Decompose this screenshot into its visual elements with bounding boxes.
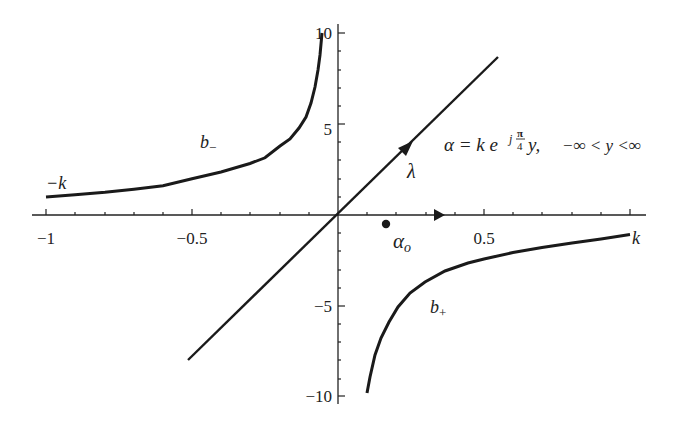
label-b-minus: b− — [200, 132, 216, 155]
y-tick-label: −5 — [314, 297, 332, 316]
label-k: k — [632, 228, 641, 248]
label-lambda: λ — [406, 160, 416, 182]
equation-exponent-pi: π — [517, 127, 523, 139]
point-alpha-o — [382, 220, 390, 228]
y-tick-label: 5 — [324, 120, 333, 139]
label-alpha-o: αo — [393, 229, 411, 255]
equation-rhs: y, — [526, 134, 540, 155]
x-tick-label: −0.5 — [177, 229, 208, 248]
y-tick-label: 10 — [315, 24, 332, 43]
x-axis: −1 −0.5 0.5 — [32, 209, 646, 248]
contour-lambda-line — [188, 57, 498, 360]
equation-range: −∞ < y <∞ — [562, 136, 641, 155]
curve-b-plus — [367, 235, 630, 394]
complex-plane-diagram: −1 −0.5 0.5 10 5 — [0, 0, 677, 424]
label-minus-k: −k — [46, 173, 67, 193]
equation-exponent-j: j — [507, 132, 513, 146]
label-b-plus: b+ — [430, 297, 446, 320]
equation-exponent-4: 4 — [517, 140, 523, 152]
y-tick-label: −10 — [305, 387, 332, 406]
x-axis-direction-arrow-icon — [434, 209, 445, 221]
curve-b-minus — [46, 33, 322, 197]
contour-equation: α = k e j π 4 y, −∞ < y <∞ — [444, 127, 641, 155]
x-tick-label: −1 — [37, 229, 55, 248]
x-tick-label: 0.5 — [473, 229, 494, 248]
equation-lhs: α = k e — [444, 134, 498, 155]
